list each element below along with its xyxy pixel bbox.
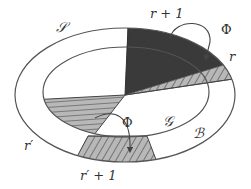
label-s: 𝒮 xyxy=(56,19,71,35)
label-r-prime-plus-1: r′ + 1 xyxy=(80,168,117,183)
label-phi-bottom: Φ xyxy=(122,115,133,130)
label-g: 𝒢 xyxy=(163,113,175,129)
label-phi-top: Φ xyxy=(221,22,232,37)
label-r-plus-1: r + 1 xyxy=(150,6,184,21)
sector-r-prime-plus-1 xyxy=(70,136,160,170)
label-b: ℬ xyxy=(193,125,205,141)
label-r: r xyxy=(229,49,236,64)
annulus-diagram: 𝒮 r + 1 Φ r 𝒢 ℬ Φ r′ r′ + 1 xyxy=(0,0,251,189)
label-r-prime: r′ xyxy=(24,138,33,153)
